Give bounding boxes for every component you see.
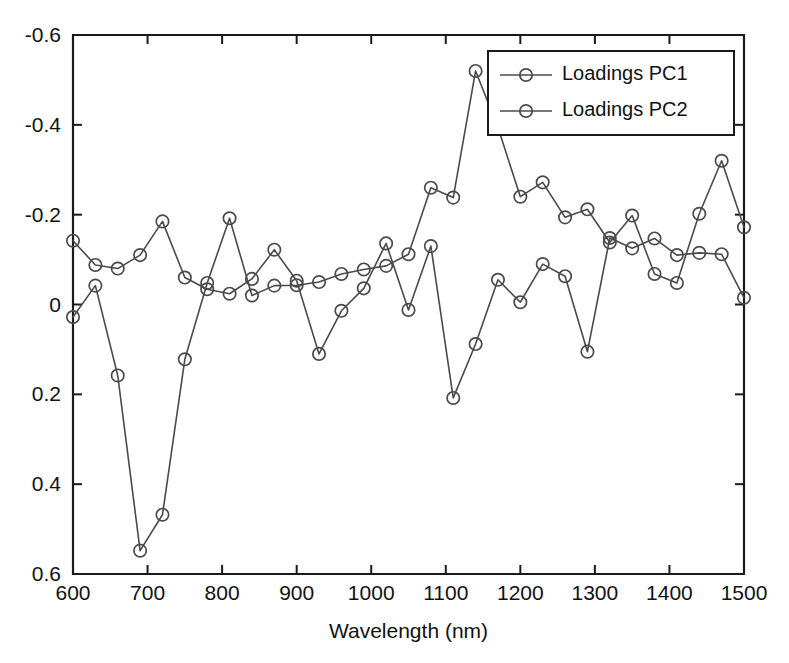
y-tick-label: -0.6 [25,23,61,46]
x-tick-label: 800 [205,581,240,604]
figure-container: 0.60.40.20-0.2-0.4-0.6600700800900100011… [0,0,789,663]
x-tick-label: 1100 [423,581,468,604]
series-2 [67,65,750,557]
series-line-2 [73,71,744,551]
legend-label: Loadings PC2 [562,98,688,120]
x-tick-label: 1000 [348,581,395,604]
legend: Loadings PC1Loadings PC2 [488,51,734,135]
x-tick-label: 1400 [646,581,693,604]
legend-label: Loadings PC1 [562,62,688,84]
loadings-line-chart: 0.60.40.20-0.2-0.4-0.6600700800900100011… [0,0,789,663]
x-axis-title: Wavelength (nm) [329,619,488,642]
x-tick-label: 1300 [572,581,619,604]
y-tick-label: -0.4 [25,113,62,136]
series-1 [67,215,750,404]
x-tick-label: 900 [279,581,314,604]
y-tick-label: 0.2 [32,382,61,405]
y-tick-label: -0.2 [25,203,61,226]
y-tick-label: 0 [49,293,61,316]
x-tick-label: 1500 [721,581,768,604]
y-tick-label: 0.4 [32,472,62,495]
x-tick-label: 600 [55,581,90,604]
x-tick-label: 1200 [497,581,544,604]
x-tick-label: 700 [130,581,165,604]
